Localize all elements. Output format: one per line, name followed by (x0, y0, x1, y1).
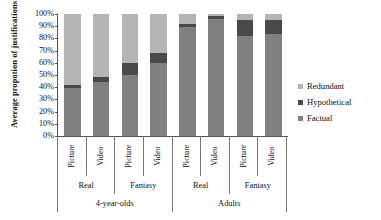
bar-segment-factual (179, 27, 196, 136)
stacked-bar[interactable] (179, 14, 196, 136)
bar-segment-factual (64, 88, 81, 136)
axis-label-media-label: Video (96, 146, 104, 166)
axis-label-media-label: Picture (239, 144, 247, 167)
bar-slot (58, 14, 87, 136)
axis-label-media: Picture (57, 136, 87, 176)
axis-label-media-label: Picture (182, 144, 190, 167)
stacked-bar[interactable] (237, 14, 254, 136)
axis-label-media-label: Picture (68, 144, 76, 167)
legend-item[interactable]: Redundant (298, 82, 351, 91)
y-axis-tick-label: 10% (18, 120, 54, 128)
y-axis-tick-label: 90% (18, 22, 54, 30)
y-axis-tick-mark (55, 75, 58, 76)
axis-label-world-label: Real (193, 181, 208, 190)
legend-item[interactable]: Factual (298, 114, 351, 123)
y-axis-tick-mark (55, 124, 58, 125)
bar-segment-hypothetical (122, 63, 139, 75)
legend-swatch-icon (298, 116, 303, 121)
y-axis-tick-label: 30% (18, 95, 54, 103)
legend-swatch-icon (298, 84, 303, 89)
bar-segment-hypothetical (265, 20, 282, 33)
y-axis-tick-label: 0% (18, 132, 54, 140)
axis-label-age: 4-year-olds (57, 194, 173, 212)
axis-label-media: Video (201, 136, 230, 176)
y-axis-tick-mark (55, 38, 58, 39)
axis-label-world: Real (57, 176, 115, 194)
bar-segment-redundant (122, 14, 139, 63)
bar-segment-factual (122, 75, 139, 136)
bar-segment-factual (208, 19, 225, 136)
axis-label-media: Picture (173, 136, 202, 176)
stacked-bar[interactable] (122, 14, 139, 136)
bar-slot (116, 14, 145, 136)
bar-segment-hypothetical (150, 53, 167, 63)
axis-label-world-label: Fantasy (130, 181, 156, 190)
axis-label-media-label: Video (268, 146, 276, 166)
stacked-bar[interactable] (208, 14, 225, 136)
bar-slot (87, 14, 116, 136)
bar-segment-hypothetical (237, 20, 254, 36)
axis-label-world: Fantasy (230, 176, 287, 194)
stacked-bar-chart: Average propotion of justifications 100%… (0, 0, 381, 220)
axis-label-age: Adults (173, 194, 288, 212)
axis-label-media: Video (144, 136, 173, 176)
legend-label: Redundant (307, 82, 344, 91)
bar-segment-factual (237, 36, 254, 136)
y-axis-tick-label: 60% (18, 59, 54, 67)
axis-label-media-label: Video (211, 146, 219, 166)
y-axis-tick-labels: 100%90%80%70%60%50%40%30%20%10%0% (18, 14, 54, 136)
bar-segment-redundant (179, 14, 196, 24)
bar-slot (144, 14, 173, 136)
bar-segment-redundant (64, 14, 81, 85)
bar-slot (259, 14, 288, 136)
axis-label-media: Picture (115, 136, 144, 176)
stacked-bar[interactable] (64, 14, 81, 136)
y-axis-tick-label: 80% (18, 34, 54, 42)
axis-label-world-label: Fantasy (245, 181, 271, 190)
legend-label: Factual (307, 114, 332, 123)
axis-label-world-label: Real (78, 181, 93, 190)
axis-label-world: Fantasy (115, 176, 172, 194)
category-axis: PictureVideoPictureVideoPictureVideoPict… (57, 136, 287, 212)
bar-segment-redundant (93, 14, 110, 77)
plot-area (57, 14, 288, 137)
stacked-bar[interactable] (265, 14, 282, 136)
y-axis-tick-mark (55, 87, 58, 88)
stacked-bar[interactable] (93, 14, 110, 136)
legend-swatch-icon (298, 100, 303, 105)
bar-slot (231, 14, 260, 136)
bar-slot (173, 14, 202, 136)
y-axis-tick-mark (55, 26, 58, 27)
bar-slot (202, 14, 231, 136)
legend-item[interactable]: Hypothetical (298, 98, 351, 107)
y-axis-tick-mark (55, 99, 58, 100)
stacked-bar[interactable] (150, 14, 167, 136)
bar-segment-factual (93, 82, 110, 136)
axis-label-media: Video (258, 136, 287, 176)
y-axis-tick-label: 100% (18, 10, 54, 18)
chart-legend: RedundantHypotheticalFactual (298, 82, 351, 123)
y-axis-tick-label: 40% (18, 83, 54, 91)
axis-tier-media: PictureVideoPictureVideoPictureVideoPict… (57, 136, 287, 176)
axis-tier-age: 4-year-oldsAdults (57, 194, 287, 212)
axis-tier-world: RealFantasyRealFantasy (57, 176, 287, 194)
bar-segment-factual (150, 63, 167, 136)
y-axis-tick-mark (55, 14, 58, 15)
axis-label-age-label: Adults (218, 199, 240, 208)
axis-label-media: Picture (230, 136, 259, 176)
axis-label-age-label: 4-year-olds (96, 199, 134, 208)
y-axis-tick-label: 20% (18, 107, 54, 115)
y-axis-tick-mark (55, 63, 58, 64)
y-axis-tick-label: 70% (18, 46, 54, 54)
axis-label-media: Video (87, 136, 116, 176)
bar-segment-redundant (150, 14, 167, 53)
axis-label-media-label: Picture (125, 144, 133, 167)
y-axis-tick-mark (55, 112, 58, 113)
bar-segment-factual (265, 34, 282, 136)
y-axis-tick-label: 50% (18, 71, 54, 79)
y-axis-tick-mark (55, 51, 58, 52)
axis-label-world: Real (173, 176, 230, 194)
legend-label: Hypothetical (307, 98, 351, 107)
bars-layer (58, 14, 288, 136)
axis-label-media-label: Video (154, 146, 162, 166)
